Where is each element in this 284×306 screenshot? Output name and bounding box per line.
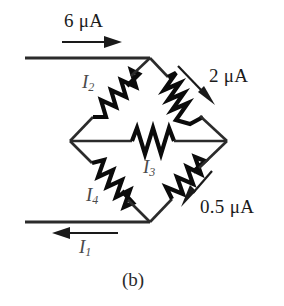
arrow-head-i1 (52, 227, 70, 239)
resistor-lower-right (166, 157, 205, 199)
branch-label-i2: I2 (82, 72, 94, 93)
current-label-lower-right: 0.5 μA (200, 197, 254, 216)
wire-lower-right-upper (199, 141, 227, 168)
branch-label-i1-subscript: 1 (85, 245, 91, 259)
branch-center (70, 128, 227, 154)
resistor-upper-left (93, 70, 139, 117)
circuit-diagram-canvas (0, 0, 284, 306)
resistor-center (132, 128, 174, 154)
wire-upper-left-lower (70, 117, 93, 141)
branch-label-i3: I3 (143, 157, 155, 178)
wire-lower-left-lower (128, 200, 150, 222)
arrow-6ua (62, 36, 122, 48)
branch-lower-left (70, 141, 150, 222)
wire-upper-right-upper (150, 58, 168, 77)
current-label-input-top: 6 μA (64, 11, 103, 30)
branch-label-i4: I4 (86, 185, 98, 206)
circuit-figure: 6 μA 2 μA 0.5 μA I2 I3 I4 I1 (b) (0, 0, 284, 306)
branch-label-i2-subscript: 2 (88, 80, 94, 94)
branch-label-i1: I1 (79, 237, 91, 258)
wire-lower-right-lower (150, 199, 172, 222)
wire-lower-left-upper (70, 141, 92, 163)
branch-label-i4-subscript: 4 (92, 193, 98, 207)
figure-caption: (b) (122, 270, 144, 289)
branch-label-i3-subscript: 3 (149, 165, 155, 179)
resistor-upper-right (164, 73, 203, 124)
wire-upper-right-lower (200, 116, 227, 141)
arrow-head-6ua (104, 36, 122, 48)
current-label-upper-right: 2 μA (209, 66, 248, 85)
